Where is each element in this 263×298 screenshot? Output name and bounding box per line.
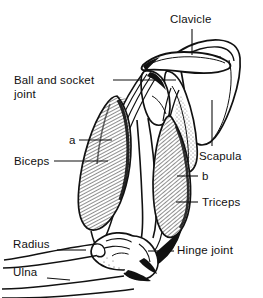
label-ball-and-socket-joint-line1: Ball and socket [14,74,94,87]
label-b: b [202,170,209,183]
label-biceps: Biceps [14,155,49,168]
label-triceps: Triceps [202,196,240,209]
label-hinge-joint: Hinge joint [177,244,233,257]
label-clavicle: Clavicle [170,13,211,26]
label-ulna: Ulna [13,266,37,279]
label-a: a [69,134,76,147]
label-ball-and-socket-joint-line2: joint [14,88,36,101]
biceps-muscle-shape [74,92,136,252]
anatomy-diagram-figure: Clavicle Ball and socket joint a Biceps … [0,0,263,298]
label-radius: Radius [13,238,50,251]
label-scapula: Scapula [199,150,242,163]
leader-ulna [47,278,70,280]
